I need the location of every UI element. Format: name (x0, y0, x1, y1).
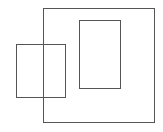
left-overlapping-rectangle (17, 45, 66, 98)
inner-rectangle (80, 21, 121, 89)
diagram-canvas (0, 0, 163, 132)
outer-square (44, 9, 155, 123)
